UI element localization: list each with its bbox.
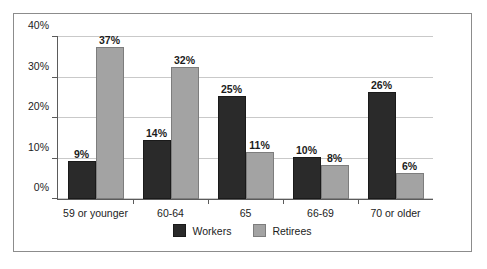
bar-value-label: 8% <box>327 152 342 164</box>
bars: 14%32% <box>133 37 208 199</box>
bar-value-label: 11% <box>249 139 269 151</box>
bar-group: 26%6%70 or older <box>358 37 433 199</box>
bar-retirees[interactable]: 6% <box>396 173 424 199</box>
legend-label: Retirees <box>272 225 311 237</box>
legend-label: Workers <box>192 225 231 237</box>
x-tick-label: 70 or older <box>358 207 433 219</box>
bar-group: 9%37%59 or younger <box>58 37 133 199</box>
x-tick-mark <box>208 199 209 204</box>
bars: 26%6% <box>358 37 433 199</box>
legend-swatch-icon <box>173 224 186 237</box>
y-tick-label: 30% <box>28 60 49 72</box>
y-tick-label: 40% <box>28 19 49 31</box>
bar-group: 10%8%66-69 <box>283 37 358 199</box>
bar-workers[interactable]: 14% <box>143 140 171 199</box>
bar-workers[interactable]: 10% <box>293 157 321 200</box>
bar-workers[interactable]: 26% <box>368 92 396 199</box>
legend-item-retirees[interactable]: Retirees <box>253 224 311 237</box>
x-tick-label: 60-64 <box>133 207 208 219</box>
chart-legend: WorkersRetirees <box>14 224 471 237</box>
bar-value-label: 14% <box>146 127 167 139</box>
chart-figure: 0%10%20%30%40% 9%37%59 or younger14%32%6… <box>13 13 472 252</box>
bar-value-label: 9% <box>74 148 89 160</box>
bar-retirees[interactable]: 32% <box>171 67 199 199</box>
bar-retirees[interactable]: 37% <box>96 47 124 199</box>
x-tick-mark <box>133 199 134 204</box>
bars: 25%11% <box>208 37 283 199</box>
legend-item-workers[interactable]: Workers <box>173 224 231 237</box>
x-tick-label: 59 or younger <box>58 207 133 219</box>
bar-value-label: 10% <box>296 144 317 156</box>
bar-value-label: 37% <box>99 34 120 46</box>
x-tick-label: 65 <box>208 207 283 219</box>
bar-workers[interactable]: 25% <box>218 96 246 199</box>
x-tick-mark <box>283 199 284 204</box>
legend-swatch-icon <box>253 224 266 237</box>
bar-retirees[interactable]: 8% <box>321 165 349 199</box>
bars: 10%8% <box>283 37 358 199</box>
bar-value-label: 6% <box>402 160 417 172</box>
bar-value-label: 32% <box>174 54 195 66</box>
bar-group: 25%11%65 <box>208 37 283 199</box>
x-tick-label: 66-69 <box>283 207 358 219</box>
bar-value-label: 26% <box>371 79 392 91</box>
y-tick-label: 10% <box>28 141 49 153</box>
bars: 9%37% <box>58 37 133 199</box>
bar-workers[interactable]: 9% <box>68 161 96 199</box>
y-tick-label: 20% <box>28 100 49 112</box>
bar-group: 14%32%60-64 <box>133 37 208 199</box>
plot-area: 0%10%20%30%40% 9%37%59 or younger14%32%6… <box>58 37 433 199</box>
x-tick-mark <box>358 199 359 204</box>
x-axis-line <box>57 199 433 200</box>
bar-retirees[interactable]: 11% <box>246 152 274 199</box>
bar-value-label: 25% <box>221 83 242 95</box>
y-tick-label: 0% <box>34 181 49 193</box>
